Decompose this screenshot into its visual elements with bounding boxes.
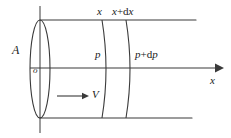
section-arc-x bbox=[102, 20, 106, 118]
label-xdx-variable: x bbox=[129, 5, 134, 17]
label-pressure: p bbox=[95, 49, 101, 60]
label-station-x: x bbox=[97, 6, 102, 17]
fluid-element-diagram: x x+dx A p p+dp o x V bbox=[0, 0, 231, 138]
label-pdp-variable: p bbox=[152, 48, 158, 60]
section-arc-x-plus-dx bbox=[126, 20, 130, 118]
label-station-x-plus-dx: x+dx bbox=[112, 6, 134, 17]
x-axis-arrowhead-icon bbox=[215, 64, 224, 73]
velocity-arrowhead-icon bbox=[82, 93, 89, 99]
label-x-axis: x bbox=[210, 75, 215, 86]
label-velocity: V bbox=[92, 89, 99, 100]
label-cross-section-area: A bbox=[12, 44, 19, 56]
label-pressure-plus-dp: p+dp bbox=[135, 49, 158, 60]
label-origin: o bbox=[33, 66, 38, 75]
